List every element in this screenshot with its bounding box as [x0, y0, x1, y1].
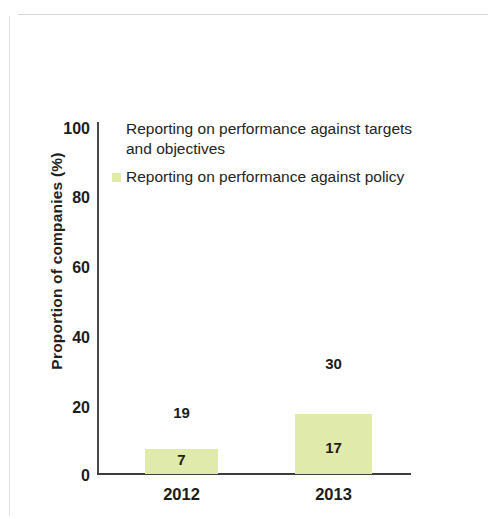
bar-value-label-2013-targets: 30 [295, 356, 372, 371]
y-tick-label-0: 0 [38, 468, 90, 484]
bar-value-label-2012-targets: 19 [145, 405, 218, 420]
legend-label-series-1: Reporting on performance against policy [126, 167, 404, 187]
scan-artifact-left-line [9, 16, 10, 516]
bar-value-label-2012-policy: 7 [145, 452, 218, 467]
legend-item-targets-objectives: Reporting on performance against targets… [112, 119, 432, 158]
x-tick-label-2013: 2013 [295, 486, 372, 503]
y-tick-label-100: 100 [38, 121, 90, 137]
y-axis-line [97, 122, 99, 475]
y-tick-label-60: 60 [38, 260, 90, 276]
chart-legend: Reporting on performance against targets… [112, 119, 432, 196]
y-tick-label-80: 80 [38, 190, 90, 206]
bar-value-label-2013-policy: 17 [295, 440, 372, 455]
legend-item-policy: Reporting on performance against policy [112, 167, 432, 187]
y-axis-tick-labels: 100 80 60 40 20 0 [30, 0, 90, 519]
y-tick-label-20: 20 [38, 400, 90, 416]
x-tick-label-2012: 2012 [145, 486, 218, 503]
legend-label-series-0: Reporting on performance against targets… [126, 119, 418, 158]
y-tick-label-40: 40 [38, 330, 90, 346]
legend-swatch-icon-series-1 [112, 173, 121, 182]
chart-figure: Proportion of companies (%) 100 80 60 40… [0, 0, 492, 519]
legend-swatch-icon-series-0 [112, 125, 121, 134]
